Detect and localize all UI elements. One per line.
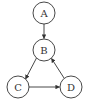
node-d-label: D xyxy=(67,82,75,93)
node-c-label: C xyxy=(14,82,22,93)
node-b: B xyxy=(33,39,55,61)
edge-d-to-b xyxy=(52,59,65,79)
graph-diagram: A B C D xyxy=(0,0,86,107)
edge-b-to-c xyxy=(26,58,37,79)
node-a: A xyxy=(33,2,55,24)
node-c: C xyxy=(7,76,29,98)
node-a-label: A xyxy=(39,8,48,19)
node-d: D xyxy=(60,76,82,98)
node-b-label: B xyxy=(40,45,47,56)
